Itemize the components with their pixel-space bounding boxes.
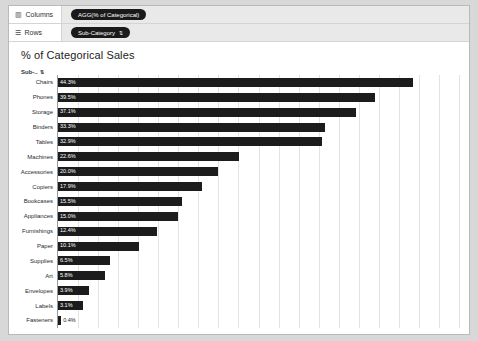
bar-value-label: 12.4% [58, 228, 76, 234]
category-label: Storage [32, 109, 53, 115]
category-label: Tables [36, 139, 53, 145]
rows-shelf-label: Rows [25, 29, 43, 36]
bar-row: 17.9% [58, 179, 459, 194]
category-label-row[interactable]: Appliances [9, 209, 57, 224]
columns-drop-area[interactable]: AGG(% of Categorical) [61, 6, 469, 23]
category-label-row[interactable]: Binders [9, 120, 57, 135]
bar-row: 32.9% [58, 135, 459, 150]
category-label: Machines [27, 154, 53, 160]
bar-series: 44.3%39.5%37.1%33.3%32.9%22.6%20.0%17.9%… [58, 75, 459, 328]
bar-row: 10.1% [58, 239, 459, 254]
category-label: Bookcases [24, 198, 53, 204]
bar-value-label: 44.3% [58, 80, 76, 86]
category-label-row[interactable]: Chairs [9, 75, 57, 90]
bar[interactable]: 3.9% [58, 286, 89, 295]
rows-shelf[interactable]: ☰ Rows Sub-Category ⇅ [9, 24, 469, 42]
category-label-row[interactable]: Tables [9, 135, 57, 150]
category-label: Phones [33, 94, 53, 100]
bar[interactable]: 37.1% [58, 108, 356, 117]
bar-row: 37.1% [58, 105, 459, 120]
pill-agg-percent-of-categorical[interactable]: AGG(% of Categorical) [71, 9, 146, 20]
category-label-row[interactable]: Storage [9, 105, 57, 120]
category-label-row[interactable]: Bookcases [9, 194, 57, 209]
bar-row: 15.0% [58, 209, 459, 224]
category-label-row[interactable]: Machines [9, 149, 57, 164]
bar-value-label: 5.8% [58, 273, 73, 279]
bar-value-label: 33.3% [58, 124, 76, 130]
bar[interactable]: 12.4% [58, 227, 157, 236]
worksheet-window: ▥ Columns AGG(% of Categorical) ☰ Rows S… [8, 5, 470, 335]
bar-value-label: 10.1% [58, 243, 76, 249]
bar[interactable]: 15.5% [58, 197, 182, 206]
bar-row: 44.3% [58, 75, 459, 90]
bar-value-label: 0.4% [61, 318, 76, 324]
bar-row: 12.4% [58, 224, 459, 239]
bar-value-label: 15.5% [58, 199, 76, 205]
rows-icon: ☰ [15, 29, 21, 36]
columns-shelf-label-cell: ▥ Columns [9, 11, 61, 18]
columns-shelf-label: Columns [26, 11, 54, 18]
bar-row: 39.5% [58, 90, 459, 105]
bar-value-label: 3.9% [58, 288, 73, 294]
bar-row: 15.5% [58, 194, 459, 209]
bar-row: 5.8% [58, 268, 459, 283]
bar-value-label: 6.5% [58, 258, 73, 264]
category-label-row[interactable]: Furnishings [9, 224, 57, 239]
sort-descending-icon[interactable]: ⇅ [119, 29, 123, 36]
rows-drop-area[interactable]: Sub-Category ⇅ [61, 24, 469, 41]
bar-value-label: 3.1% [58, 303, 73, 309]
category-label-row[interactable]: Phones [9, 90, 57, 105]
pill-sub-category[interactable]: Sub-Category ⇅ [71, 27, 130, 38]
bar-row: 0.4% [58, 313, 459, 328]
bar[interactable]: 17.9% [58, 182, 202, 191]
category-label: Furnishings [22, 228, 53, 234]
pill-columns-text: AGG(% of Categorical) [78, 12, 139, 18]
bar[interactable]: 22.6% [58, 152, 239, 161]
category-label-row[interactable]: Envelopes [9, 283, 57, 298]
category-label-row[interactable]: Copiers [9, 179, 57, 194]
category-label-row[interactable]: Paper [9, 239, 57, 254]
columns-shelf[interactable]: ▥ Columns AGG(% of Categorical) [9, 6, 469, 24]
category-label: Appliances [24, 213, 53, 219]
chart-title: % of Categorical Sales [9, 42, 469, 64]
pill-rows-text: Sub-Category [78, 30, 115, 36]
bar-row: 33.3% [58, 120, 459, 135]
bar[interactable]: 32.9% [58, 137, 322, 146]
rows-shelf-label-cell: ☰ Rows [9, 29, 61, 36]
bar[interactable]: 20.0% [58, 167, 218, 176]
plot-wrapper: ChairsPhonesStorageBindersTablesMachines… [9, 75, 469, 334]
category-label: Binders [33, 124, 53, 130]
bar-value-label: 20.0% [58, 169, 76, 175]
columns-icon: ▥ [15, 11, 22, 18]
category-label: Paper [37, 243, 53, 249]
bar-row: 6.5% [58, 254, 459, 269]
bar-row: 3.9% [58, 283, 459, 298]
category-label: Chairs [36, 79, 53, 85]
bar[interactable]: 39.5% [58, 93, 375, 102]
bar[interactable]: 5.8% [58, 271, 105, 280]
bar-value-label: 17.9% [58, 184, 76, 190]
category-label-row[interactable]: Supplies [9, 254, 57, 269]
category-label-row[interactable]: Fasteners [9, 313, 57, 328]
category-label: Supplies [30, 258, 53, 264]
bar[interactable]: 6.5% [58, 256, 110, 265]
bar[interactable]: 15.0% [58, 212, 178, 221]
viz-canvas: % of Categorical Sales Sub-.. ⇅ ChairsPh… [9, 42, 469, 334]
plot-area: 44.3%39.5%37.1%33.3%32.9%22.6%20.0%17.9%… [57, 75, 459, 328]
bar[interactable]: 44.3% [58, 78, 413, 87]
bar-value-label: 15.0% [58, 214, 76, 220]
bar-row: 3.1% [58, 298, 459, 313]
bar[interactable]: 10.1% [58, 242, 139, 251]
category-label: Copiers [32, 184, 53, 190]
bar-value-label: 22.6% [58, 154, 76, 160]
category-label: Fasteners [26, 317, 53, 323]
category-label-row[interactable]: Labels [9, 298, 57, 313]
bar-row: 22.6% [58, 149, 459, 164]
row-header-band: Sub-.. ⇅ [9, 64, 469, 75]
bar[interactable]: 3.1% [58, 301, 83, 310]
category-label-row[interactable]: Accessories [9, 164, 57, 179]
category-label: Accessories [21, 169, 53, 175]
gridline [459, 75, 460, 328]
category-label-row[interactable]: Art [9, 268, 57, 283]
bar[interactable]: 33.3% [58, 123, 325, 132]
